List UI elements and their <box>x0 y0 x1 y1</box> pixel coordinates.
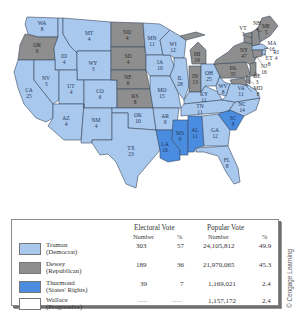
header-electoral-vote: Electoral Vote <box>134 224 175 232</box>
pop-percent: 45.3 <box>259 261 271 269</box>
ev-number: 303 <box>136 242 147 250</box>
state-ct[interactable] <box>252 50 262 58</box>
subheader-pop-number: Number <box>208 233 229 240</box>
state-vt[interactable] <box>244 32 252 44</box>
truman-swatch <box>19 243 41 255</box>
pop-number: 1,169,021 <box>208 280 236 288</box>
pop-percent: 49.9 <box>259 242 271 250</box>
pop-number: 1,157,172 <box>208 297 236 305</box>
ev-number: 189 <box>136 261 147 269</box>
legend-row-dewey: Dewey(Republican) 189 36 21,970,065 45.3 <box>12 260 278 278</box>
state-nm[interactable] <box>81 104 112 143</box>
state-co[interactable] <box>84 80 117 108</box>
wallace-swatch <box>19 298 41 310</box>
candidate-name: Wallace <box>46 296 68 303</box>
pop-number: 24,105,812 <box>203 242 235 250</box>
ev-number: 39 <box>140 280 147 288</box>
legend-table: Electoral Vote Popular Vote Number % Num… <box>11 219 279 306</box>
candidate-party: (States' Rights) <box>46 286 87 293</box>
state-wy[interactable] <box>77 51 111 80</box>
subheader-pop-percent: % <box>262 233 267 240</box>
state-fl[interactable] <box>196 146 240 184</box>
legend-row-wallace: Wallace(Progressive) ---- ---- 1,157,172… <box>12 296 278 314</box>
copyright-credit: © Cengage Learning <box>286 249 293 308</box>
state-az[interactable] <box>48 104 84 140</box>
ev-number: ---- <box>138 297 147 305</box>
state-nd[interactable] <box>111 22 145 47</box>
state-or[interactable] <box>18 34 58 60</box>
header-popular-vote: Popular Vote <box>207 224 244 232</box>
subheader-ev-number: Number <box>133 233 154 240</box>
candidate-party: (Republican) <box>46 267 81 274</box>
subheader-ev-percent: % <box>177 233 182 240</box>
state-ny[interactable] <box>214 42 256 66</box>
state-sd[interactable] <box>111 47 146 70</box>
candidate-name: Truman <box>46 241 67 248</box>
dewey-swatch <box>19 262 41 274</box>
pop-number: 21,970,065 <box>203 261 235 269</box>
pop-percent: 2.4 <box>262 280 271 288</box>
state-wa[interactable] <box>25 17 58 37</box>
thurmond-swatch <box>19 281 41 293</box>
state-nj[interactable] <box>250 62 256 76</box>
pop-percent: 2.4 <box>262 297 271 305</box>
state-ri[interactable] <box>262 50 266 55</box>
candidate-party: (Progressive) <box>46 303 82 310</box>
state-in[interactable] <box>189 66 201 92</box>
candidate-name: Thurmond <box>46 279 75 286</box>
ev-percent: 57 <box>177 242 184 250</box>
state-ks[interactable] <box>117 89 153 108</box>
state-ne[interactable] <box>111 70 150 89</box>
us-electoral-map <box>0 0 305 210</box>
legend-row-truman: Truman(Democrat) 303 57 24,105,812 49.9 <box>12 241 278 259</box>
ev-percent: 7 <box>180 280 184 288</box>
candidate-party: (Democrat) <box>46 248 77 255</box>
ev-percent: 36 <box>177 261 184 269</box>
state-al[interactable] <box>188 116 204 152</box>
legend-row-thurmond: Thurmond(States' Rights) 39 7 1,169,021 … <box>12 279 278 297</box>
ev-percent: ---- <box>172 297 181 305</box>
candidate-name: Dewey <box>46 260 65 267</box>
state-ia[interactable] <box>146 55 174 76</box>
state-me[interactable] <box>258 16 278 42</box>
